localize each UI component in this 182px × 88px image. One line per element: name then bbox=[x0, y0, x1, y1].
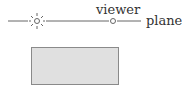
viewer-point-icon bbox=[111, 19, 116, 24]
sun-icon bbox=[29, 13, 45, 29]
diagram: viewer plane bbox=[0, 0, 182, 88]
viewer-label: viewer bbox=[96, 3, 140, 16]
gray-rectangle bbox=[31, 47, 119, 85]
plane-label: plane bbox=[146, 14, 182, 27]
